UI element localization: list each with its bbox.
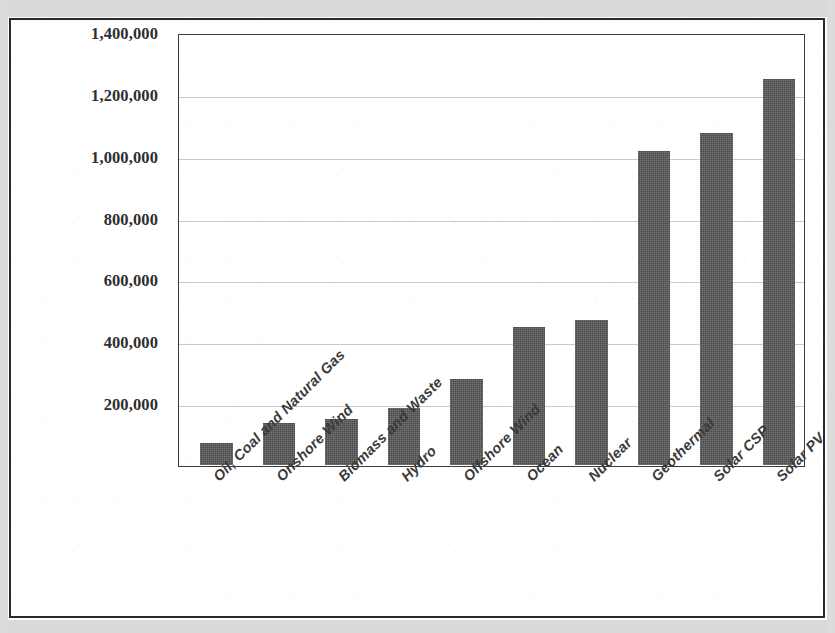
scan-margin-right [827,0,835,633]
y-tick-label: 200,000 [30,395,158,415]
bar [450,379,483,465]
chart-page: 1,400,0001,200,0001,000,000800,000600,00… [0,0,835,633]
y-tick-label: 1,400,000 [30,24,158,44]
plot-area [178,34,805,467]
y-tick-label: 800,000 [30,210,158,230]
scan-margin-bottom [0,620,835,633]
bars-layer [180,36,803,465]
x-axis-category-labels: Oil, Coal and Natural GasOnshore WindBio… [178,467,818,617]
scan-margin-top [0,0,835,17]
bar [575,320,608,465]
y-tick-label: 1,200,000 [30,86,158,106]
bar [763,79,796,465]
y-tick-label: 600,000 [30,271,158,291]
y-axis-tick-labels: 1,400,0001,200,0001,000,000800,000600,00… [30,20,158,490]
y-tick-label: 1,000,000 [30,148,158,168]
y-tick-label: 400,000 [30,333,158,353]
bar [638,151,671,465]
scan-margin-left [0,0,8,633]
bar [513,327,546,466]
